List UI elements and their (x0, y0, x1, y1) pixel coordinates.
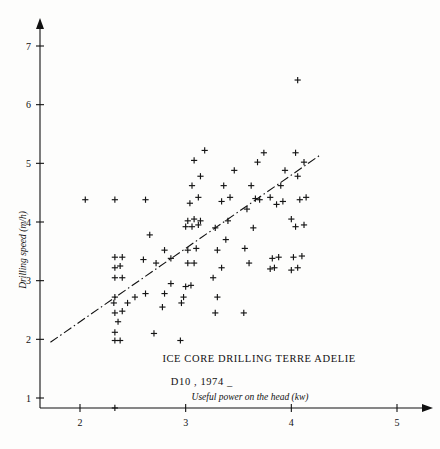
data-point-marker (161, 247, 167, 253)
data-point-marker (185, 218, 191, 224)
data-point-marker (189, 224, 195, 230)
data-point-marker (278, 183, 284, 189)
data-point-marker (119, 308, 125, 314)
x-axis-tick-label: 2 (78, 417, 83, 428)
data-point-marker (297, 197, 303, 203)
x-axis-tick-label: 4 (289, 417, 294, 428)
chart-annotations: ICE CORE DRILLING TERRE ADELIED10 , 1974… (162, 353, 355, 387)
data-point-marker (246, 260, 252, 266)
data-point-marker (248, 183, 254, 189)
data-point-marker (183, 283, 189, 289)
data-point-marker (112, 275, 118, 281)
data-point-marker (112, 310, 118, 316)
data-point-marker (210, 275, 216, 281)
data-point-marker (195, 194, 201, 200)
data-point-marker (299, 253, 305, 259)
data-point-marker (140, 256, 146, 262)
data-point-marker (303, 194, 309, 200)
data-point-marker (257, 197, 263, 203)
data-point-marker (252, 195, 258, 201)
data-point-marker (112, 294, 118, 300)
data-point-marker (180, 294, 186, 300)
data-point-marker (117, 337, 123, 343)
data-point-marker (214, 247, 220, 253)
data-point-marker (227, 194, 233, 200)
data-point-marker (189, 183, 195, 189)
data-point-marker (212, 310, 218, 316)
data-point-marker (197, 173, 203, 179)
scatter-plot: 12345672345Drilling speed (m/h)Useful po… (0, 0, 440, 449)
data-point-marker (218, 265, 224, 271)
data-point-marker (242, 245, 248, 251)
data-point-marker (269, 255, 275, 261)
data-point-marker (292, 150, 298, 156)
axis-labels: 12345672345Drilling speed (m/h)Useful po… (18, 41, 400, 429)
data-point-marker (288, 267, 294, 273)
data-point-marker (241, 310, 247, 316)
x-axis-arrow (422, 404, 433, 412)
data-point-marker (221, 183, 227, 189)
data-point-marker (111, 300, 117, 306)
data-point-marker (178, 300, 184, 306)
data-point-marker (119, 275, 125, 281)
y-axis-tick-label: 7 (26, 41, 31, 52)
data-point-marker (185, 260, 191, 266)
data-point-marker (276, 254, 282, 260)
data-point-marker (112, 254, 118, 260)
chart-annotation-text: D10 , 1974 _ (171, 376, 233, 387)
data-point-marker (185, 247, 191, 253)
data-point-marker (273, 201, 279, 207)
data-point-marker (295, 77, 301, 83)
data-point-marker (202, 147, 208, 153)
data-point-marker (115, 319, 121, 325)
data-point-marker (112, 329, 118, 335)
data-point-marker (191, 260, 197, 266)
data-point-marker (132, 294, 138, 300)
data-point-marker (292, 224, 298, 230)
data-point-marker (295, 265, 301, 271)
data-point-marker (188, 282, 194, 288)
chart-annotation-text: ICE CORE DRILLING TERRE ADELIE (162, 353, 355, 364)
data-point-marker (168, 255, 174, 261)
data-point-marker (254, 159, 260, 165)
data-point-marker (159, 304, 165, 310)
data-point-marker (112, 265, 118, 271)
data-point-marker (271, 265, 277, 271)
data-point-marker (290, 254, 296, 260)
data-point-marker (147, 232, 153, 238)
data-point-marker (119, 254, 125, 260)
x-axis-tick-label: 5 (395, 417, 400, 428)
data-point-marker (261, 150, 267, 156)
data-point-marker (153, 260, 159, 266)
data-point-marker (282, 167, 288, 173)
data-point-marker (225, 218, 231, 224)
data-point-marker (288, 216, 294, 222)
data-point-marker (112, 197, 118, 203)
data-point-marker (142, 197, 148, 203)
y-axis-tick-label: 1 (26, 393, 31, 404)
data-point-marker (112, 337, 118, 343)
data-point-marker (218, 198, 224, 204)
y-axis-tick-label: 5 (26, 158, 31, 169)
data-point-marker (82, 197, 88, 203)
data-point-marker (301, 159, 307, 165)
data-point-marker (187, 200, 193, 206)
data-point-marker (112, 405, 118, 411)
data-point-marker (191, 157, 197, 163)
data-point-marker (267, 194, 273, 200)
y-axis-arrow (36, 18, 44, 29)
data-point-marker (168, 281, 174, 287)
data-point-marker (151, 330, 157, 336)
y-axis-tick-label: 2 (26, 334, 31, 345)
data-point-marker (124, 300, 130, 306)
data-point-marker (295, 173, 301, 179)
data-point-marker (223, 237, 229, 243)
data-point-marker (183, 224, 189, 230)
data-point-marker (214, 294, 220, 300)
data-point-marker (231, 167, 237, 173)
data-point-marker (267, 266, 273, 272)
data-point-marker (250, 225, 256, 231)
data-point-marker (161, 290, 167, 296)
data-point-marker (142, 290, 148, 296)
data-point-marker (177, 337, 183, 343)
